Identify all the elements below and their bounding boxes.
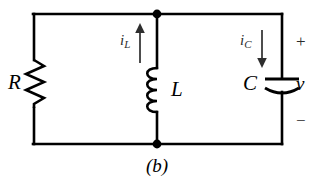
inductor-coil-icon: [147, 68, 157, 112]
voltage-label: v: [296, 74, 304, 93]
arrow-down-icon: [257, 30, 267, 68]
voltage-minus-sign: −: [296, 112, 306, 129]
node-dot-top: [153, 10, 162, 19]
capacitor-current-subscript: C: [244, 38, 251, 50]
arrow-up-icon: [135, 23, 145, 63]
figure-caption: (b): [146, 156, 168, 175]
circuit-figure: R L C iL iC + v − (b): [0, 0, 320, 184]
node-dot-bottom: [153, 140, 162, 149]
resistor-label: R: [8, 72, 21, 93]
capacitor-label: C: [243, 73, 257, 94]
inductor-current-subscript: L: [124, 38, 130, 50]
capacitor-current-label: iC: [240, 33, 252, 50]
voltage-plus-sign: +: [296, 33, 306, 50]
inductor-current-label: iL: [120, 33, 130, 50]
resistor-zigzag-icon: [26, 60, 44, 108]
inductor-label: L: [171, 79, 183, 100]
